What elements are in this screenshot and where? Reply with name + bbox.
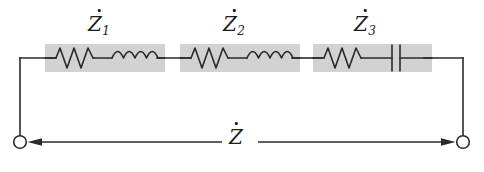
overdot-icon-z1 xyxy=(98,9,101,12)
overdot-icon-z2 xyxy=(233,9,236,12)
overdot-icon-z-total xyxy=(235,122,238,125)
impedance-label-z3-subscript: 3 xyxy=(368,24,376,38)
impedance-label-z2-subscript: 2 xyxy=(237,24,245,38)
circuit-diagram-figure: Z1 Z2 Z3 Z xyxy=(0,0,484,172)
impedance-label-z1-subscript: 1 xyxy=(102,24,110,38)
arrowhead-right-icon xyxy=(441,138,456,145)
total-impedance-label-symbol: Z xyxy=(229,127,243,147)
impedance-label-z3: Z3 xyxy=(354,14,376,37)
impedance-label-z3-symbol: Z xyxy=(354,14,368,34)
arrowhead-left-icon xyxy=(28,138,43,145)
total-impedance-label: Z xyxy=(229,127,243,147)
overdot-icon-z3 xyxy=(364,9,367,12)
impedance-label-z2: Z2 xyxy=(223,14,245,37)
terminal-left-icon xyxy=(14,136,27,149)
impedance-label-z1-symbol: Z xyxy=(88,14,102,34)
impedance-label-z1: Z1 xyxy=(88,14,110,37)
impedance-label-z2-symbol: Z xyxy=(223,14,237,34)
terminal-right-icon xyxy=(457,136,470,149)
